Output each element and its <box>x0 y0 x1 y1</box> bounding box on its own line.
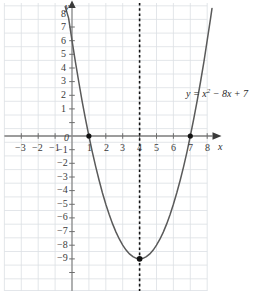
x-tick-label-4: 4 <box>137 143 142 153</box>
y-tick-label-3: 3 <box>61 76 66 86</box>
x-tick-label-6: 6 <box>171 143 176 153</box>
y-tick-label-1: 1 <box>61 104 66 114</box>
equation-rest: − 8x + 7 <box>210 88 248 99</box>
equation-equals: = <box>190 88 202 99</box>
x-tick-label--2: −2 <box>32 143 43 153</box>
x-tick-label-8: 8 <box>205 143 210 153</box>
y-tick-label--5: −5 <box>57 199 68 209</box>
x-tick-label-5: 5 <box>154 143 159 153</box>
y-tick-label--8: −8 <box>57 240 68 250</box>
y-tick-label--4: −4 <box>57 185 68 195</box>
x-tick-label-1: 1 <box>87 143 92 153</box>
y-tick-label--7: −7 <box>57 226 68 236</box>
x-tick-label-7: 7 <box>188 143 193 153</box>
root-marker-x1 <box>86 133 91 138</box>
y-tick-label--2: −2 <box>57 158 68 168</box>
root-marker-x7 <box>188 133 193 138</box>
y-tick-label--9: −9 <box>57 253 68 263</box>
x-tick-label-3: 3 <box>120 143 125 153</box>
y-tick-label-7: 7 <box>61 22 66 32</box>
x-axis-label: x <box>218 142 222 152</box>
x-tick-label--3: −3 <box>15 143 26 153</box>
y-tick-label-5: 5 <box>61 49 66 59</box>
y-tick-label-6: 6 <box>61 36 66 46</box>
y-tick-label-2: 2 <box>61 90 66 100</box>
y-tick-label--1: −1 <box>57 145 68 155</box>
origin-label: 0 <box>64 133 69 143</box>
y-axis-label: y <box>65 2 69 12</box>
vertex-marker <box>137 256 143 262</box>
y-tick-label-4: 4 <box>61 63 66 73</box>
x-tick-label-2: 2 <box>104 143 109 153</box>
y-tick-label--6: −6 <box>57 212 68 222</box>
equation-annotation: y = x2 − 8x + 7 <box>186 89 248 99</box>
y-tick-label--3: −3 <box>57 172 68 182</box>
parabola-graph-figure: −3 −2 −1 1 2 3 4 5 6 7 8 0 8 7 6 5 4 3 2… <box>0 0 260 297</box>
